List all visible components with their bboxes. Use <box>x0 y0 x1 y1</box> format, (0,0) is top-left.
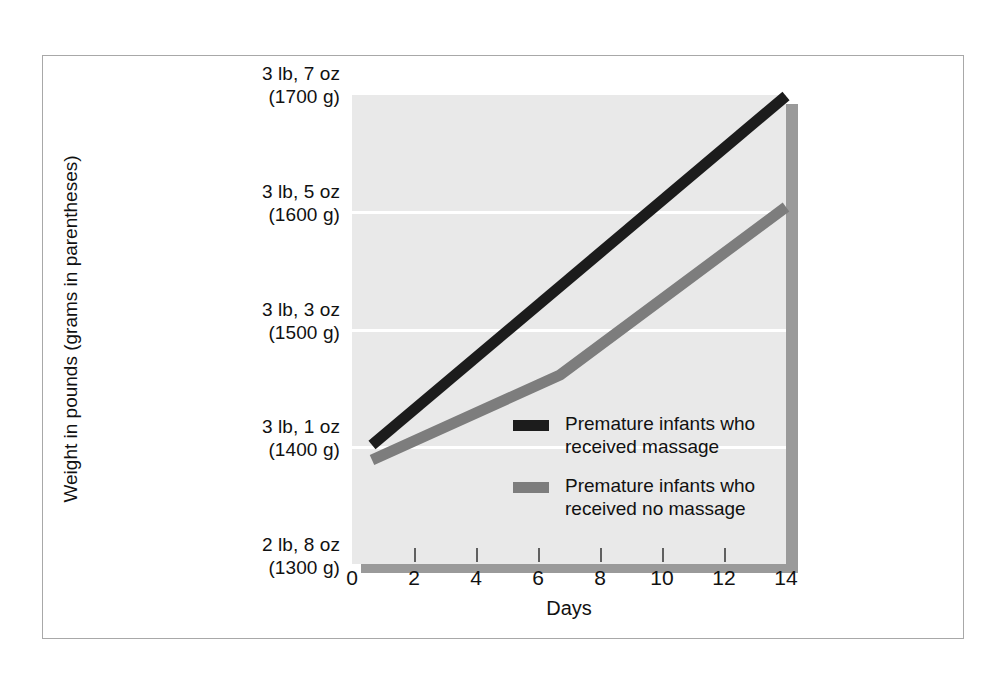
x-tick-label-2: 2 <box>394 566 434 590</box>
legend-label-no-massage-line1: Premature infants who <box>565 474 783 497</box>
x-tick-label-10: 10 <box>642 566 682 590</box>
x-tickmark-2 <box>414 548 416 562</box>
y-tick-label-1300: 2 lb, 8 oz (1300 g) <box>110 533 340 579</box>
y-tick-1600-line2: (1600 g) <box>110 203 340 226</box>
y-tick-1300-line2: (1300 g) <box>110 556 340 579</box>
gridline-1600 <box>352 211 786 214</box>
plot-panel-shadow-right <box>786 104 798 573</box>
y-axis-title: Weight in pounds (grams in parentheses) <box>60 119 82 539</box>
legend-label-massage-line2: received massage <box>565 435 783 458</box>
y-tick-1700-line2: (1700 g) <box>110 85 340 108</box>
y-tick-1300-line1: 2 lb, 8 oz <box>110 533 340 556</box>
y-tick-1400-line1: 3 lb, 1 oz <box>110 415 340 438</box>
legend: Premature infants who received massage P… <box>513 412 783 536</box>
legend-swatch-no-massage <box>513 482 549 493</box>
y-tick-1500-line1: 3 lb, 3 oz <box>110 298 340 321</box>
legend-label-massage-line1: Premature infants who <box>565 412 783 435</box>
x-tickmark-12 <box>724 548 726 562</box>
y-tick-label-1400: 3 lb, 1 oz (1400 g) <box>110 415 340 461</box>
x-tick-label-0: 0 <box>332 566 372 590</box>
y-tick-1400-line2: (1400 g) <box>110 438 340 461</box>
x-tickmark-8 <box>600 548 602 562</box>
legend-swatch-massage <box>513 420 549 431</box>
x-tickmark-10 <box>662 548 664 562</box>
x-axis-title: Days <box>352 597 786 620</box>
y-tick-1600-line1: 3 lb, 5 oz <box>110 180 340 203</box>
y-tick-label-1700: 3 lb, 7 oz (1700 g) <box>110 62 340 108</box>
gridline-1500 <box>352 329 786 332</box>
x-tick-label-8: 8 <box>580 566 620 590</box>
y-tick-label-1600: 3 lb, 5 oz (1600 g) <box>110 180 340 226</box>
x-tick-label-4: 4 <box>456 566 496 590</box>
x-tick-label-14: 14 <box>766 566 806 590</box>
y-tick-1700-line1: 3 lb, 7 oz <box>110 62 340 85</box>
legend-item-massage: Premature infants who received massage <box>513 412 783 458</box>
x-tick-label-6: 6 <box>518 566 558 590</box>
y-tick-1500-line2: (1500 g) <box>110 321 340 344</box>
x-tick-label-12: 12 <box>704 566 744 590</box>
x-tickmark-4 <box>476 548 478 562</box>
legend-item-no-massage: Premature infants who received no massag… <box>513 474 783 520</box>
legend-label-no-massage-line2: received no massage <box>565 497 783 520</box>
x-tickmark-6 <box>538 548 540 562</box>
y-tick-label-1500: 3 lb, 3 oz (1500 g) <box>110 298 340 344</box>
figure: 3 lb, 7 oz (1700 g) 3 lb, 5 oz (1600 g) … <box>0 0 994 682</box>
